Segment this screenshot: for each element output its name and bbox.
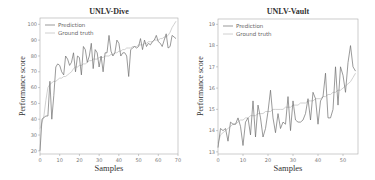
y-tick-label: 100 <box>27 21 37 27</box>
y-tick-label: 50 <box>31 100 37 106</box>
y-tick-label: 60 <box>31 84 37 90</box>
y-tick-label: 80 <box>31 53 37 59</box>
x-tick-label: 40 <box>315 157 321 163</box>
prediction-line <box>218 46 356 148</box>
y-tick-label: 17 <box>209 64 215 70</box>
chart-unlv-dive-svg: UNLV-Dive 2030405060708090100 0102030405… <box>0 0 190 180</box>
chart-unlv-vault: UNLV-Vault 13141516171819 01020304050 Pr… <box>185 0 375 180</box>
legend-prediction-label: Prediction <box>236 23 264 29</box>
chart-title: UNLV-Dive <box>89 7 129 16</box>
chart-unlv-dive: UNLV-Dive 2030405060708090100 0102030405… <box>0 0 190 180</box>
prediction-line <box>40 34 176 151</box>
x-axis-ticks: 01020304050 <box>216 154 346 163</box>
x-tick-label: 20 <box>76 157 82 163</box>
x-tick-label: 50 <box>135 157 141 163</box>
y-tick-label: 19 <box>209 21 215 27</box>
legend: Prediction Ground truth <box>45 22 94 36</box>
x-axis-label: Samples <box>95 163 124 173</box>
x-tick-label: 60 <box>155 157 161 163</box>
y-axis-label: Performance score <box>18 56 27 116</box>
x-axis-ticks: 010203040506070 <box>38 154 181 163</box>
chart-unlv-vault-svg: UNLV-Vault 13141516171819 01020304050 Pr… <box>185 0 375 180</box>
x-tick-label: 0 <box>216 157 219 163</box>
legend-prediction-label: Prediction <box>58 22 86 28</box>
y-tick-label: 40 <box>31 116 37 122</box>
x-tick-label: 10 <box>240 157 246 163</box>
y-axis-label: Performance score <box>196 56 205 116</box>
x-tick-label: 70 <box>175 157 181 163</box>
y-tick-label: 30 <box>31 132 37 138</box>
y-tick-label: 18 <box>209 42 215 48</box>
y-tick-label: 20 <box>31 148 37 154</box>
y-axis-ticks: 13141516171819 <box>209 21 218 155</box>
legend-ground-truth-label: Ground truth <box>58 30 94 36</box>
x-tick-label: 20 <box>265 157 271 163</box>
y-axis-ticks: 2030405060708090100 <box>27 21 40 154</box>
y-tick-label: 15 <box>209 106 215 112</box>
x-tick-label: 0 <box>38 157 41 163</box>
y-tick-label: 14 <box>209 127 215 133</box>
chart-title: UNLV-Vault <box>267 7 310 16</box>
legend-ground-truth-label: Ground truth <box>236 31 272 37</box>
y-tick-label: 70 <box>31 68 37 74</box>
y-tick-label: 13 <box>209 149 215 155</box>
x-axis-label: Samples <box>274 163 303 173</box>
x-tick-label: 50 <box>340 157 346 163</box>
legend: Prediction Ground truth <box>223 23 272 37</box>
y-tick-label: 16 <box>209 85 215 91</box>
x-tick-label: 10 <box>57 157 63 163</box>
y-tick-label: 90 <box>31 37 37 43</box>
